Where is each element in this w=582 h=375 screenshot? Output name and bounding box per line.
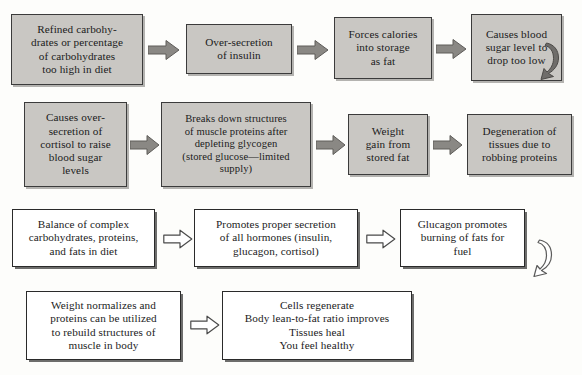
flow-node-label: Cells regenerate Body lean-to-fat ratio … bbox=[223, 299, 411, 352]
flow-node-n6: Breaks down structures of muscle protein… bbox=[161, 102, 311, 187]
flow-node-n9: Balance of complex carbohydrates, protei… bbox=[12, 209, 155, 267]
flow-node-n1: Refined carbohy- drates or percentage of… bbox=[11, 14, 143, 85]
flow-node-n2: Over-secretion of insulin bbox=[186, 24, 292, 74]
arrow-right-filled bbox=[436, 39, 467, 59]
flow-node-n8: Degeneration of tissues due to robbing p… bbox=[467, 114, 572, 175]
arrow-right-filled bbox=[148, 40, 180, 60]
flow-node-n13: Cells regenerate Body lean-to-fat ratio … bbox=[222, 291, 412, 360]
flow-node-label: Glucagon promotes burning of fats for fu… bbox=[401, 218, 524, 258]
arrow-right-filled bbox=[316, 135, 346, 155]
flow-node-label: Breaks down structures of muscle protein… bbox=[162, 113, 310, 176]
arrow-right-filled bbox=[130, 135, 160, 155]
flow-node-label: Causes over- secretion of cortisol to ra… bbox=[25, 111, 126, 177]
flow-node-n11: Glucagon promotes burning of fats for fu… bbox=[400, 209, 525, 267]
flow-node-n5: Causes over- secretion of cortisol to ra… bbox=[24, 102, 127, 187]
arrow-wrap-down-hollow bbox=[531, 238, 559, 280]
arrow-right-filled bbox=[433, 135, 463, 155]
flow-node-label: Over-secretion of insulin bbox=[187, 36, 291, 62]
flow-node-n10: Promotes proper secretion of all hormone… bbox=[194, 209, 358, 267]
flow-node-label: Refined carbohy- drates or percentage of… bbox=[12, 23, 142, 76]
flow-node-label: Weight gain from stored fat bbox=[349, 125, 427, 165]
flow-node-label: Balance of complex carbohydrates, protei… bbox=[13, 218, 154, 258]
flow-node-n7: Weight gain from stored fat bbox=[348, 114, 428, 175]
flow-node-label: Promotes proper secretion of all hormone… bbox=[195, 218, 357, 258]
arrow-right-hollow bbox=[190, 315, 220, 335]
arrow-right-hollow bbox=[366, 229, 396, 249]
flow-node-label: Weight normalizes and proteins can be ut… bbox=[27, 299, 180, 352]
flow-node-n3: Forces calories into storage as fat bbox=[334, 17, 432, 79]
flowchart: Refined carbohy- drates or percentage of… bbox=[0, 0, 582, 375]
flow-node-n12: Weight normalizes and proteins can be ut… bbox=[26, 291, 181, 360]
flow-node-label: Forces calories into storage as fat bbox=[335, 28, 431, 68]
arrow-right-hollow bbox=[163, 229, 193, 249]
flow-node-label: Degeneration of tissues due to robbing p… bbox=[468, 125, 571, 165]
arrow-wrap-down-filled bbox=[538, 41, 566, 83]
arrow-right-filled bbox=[297, 40, 329, 60]
